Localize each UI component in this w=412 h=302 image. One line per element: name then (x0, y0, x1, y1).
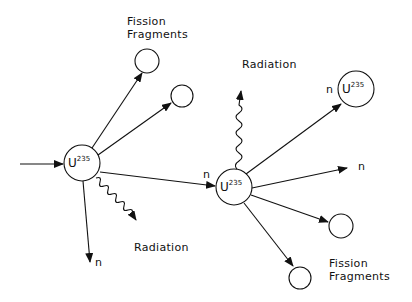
neutron-arrow-right (252, 168, 347, 188)
nucleus-label-3: U235 (342, 81, 364, 96)
arrow-to-fragment-4 (244, 203, 293, 266)
neutron-label-upper-right: n (326, 83, 333, 96)
radiation-label-left: Radiation (134, 241, 189, 254)
fission-chain-diagram: U235 U235 U235 FissionFragments FissionF… (0, 0, 412, 302)
fragment-top-2 (171, 85, 193, 107)
arrow-to-fragment-2 (98, 103, 171, 155)
neutron-arrow-down (83, 181, 90, 262)
neutron-arrow-middle (100, 172, 215, 186)
radiation-label-top: Radiation (242, 58, 297, 71)
fission-fragments-label-bottom: FissionFragments (329, 257, 390, 283)
arrow-to-fragment-1 (92, 73, 142, 148)
fission-fragments-label-top: FissionFragments (127, 15, 188, 41)
nucleus-label-2: U235 (220, 179, 242, 194)
fragment-top-1 (135, 49, 159, 73)
nucleus-label-1: U235 (68, 155, 90, 170)
arrow-to-fragment-3 (251, 195, 328, 222)
neutron-label-down: n (95, 256, 102, 269)
radiation-wave-top (235, 91, 242, 169)
fragment-bottom-2 (289, 267, 311, 289)
radiation-wave-left (96, 178, 136, 221)
neutron-arrow-upper-right (246, 104, 341, 174)
neutron-label-middle: n (203, 168, 210, 181)
neutron-label-right: n (358, 160, 365, 173)
fragment-bottom-1 (329, 214, 353, 238)
